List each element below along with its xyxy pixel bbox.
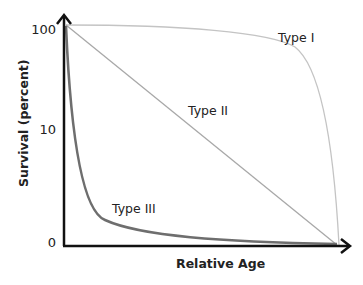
y-tick-0: 0 xyxy=(16,235,56,250)
y-tick-100: 100 xyxy=(16,22,56,37)
type-2-curve xyxy=(66,25,337,245)
type-1-label: Type I xyxy=(278,30,314,45)
survivorship-chart: 100 10 0 Type I Type II Type III Relativ… xyxy=(0,0,363,285)
y-axis-label: Survival (percent) xyxy=(16,60,31,188)
x-axis-label: Relative Age xyxy=(176,256,265,271)
type-3-label: Type III xyxy=(112,201,156,216)
type-2-label: Type II xyxy=(188,103,228,118)
